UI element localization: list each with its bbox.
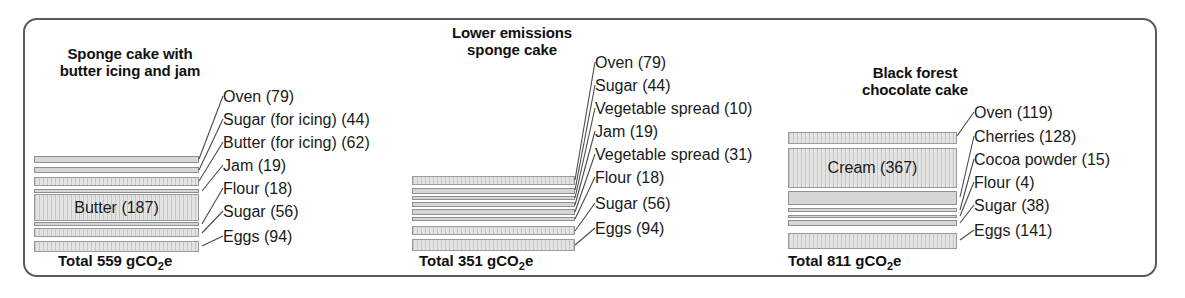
callout-oven: Oven (119) <box>974 105 1053 121</box>
panel-total: Total 351 gCO2e <box>419 252 533 272</box>
callout-eggs: Eggs (94) <box>223 229 292 245</box>
callout-jam: Jam (19) <box>223 158 286 174</box>
callout-flour: Flour (18) <box>223 181 292 197</box>
bar-segment-flour <box>788 215 957 218</box>
bar-segment-jam <box>412 202 575 207</box>
panel-lower-emissions-sponge-cake: Lower emissions sponge cake Oven (79) Su… <box>390 0 790 298</box>
callout-cocoa-powder: Cocoa powder (15) <box>974 152 1110 168</box>
callout-vegetable-spread-bottom: Vegetable spread (31) <box>595 147 752 163</box>
panel-total-suffix: e <box>164 252 172 269</box>
panel-sponge-cake-butter-icing-jam: Sponge cake with butter icing and jam Bu… <box>0 0 400 298</box>
callout-cherries: Cherries (128) <box>974 129 1076 145</box>
bar-segment-cherries <box>788 191 957 205</box>
callout-butter-for-icing: Butter (for icing) (62) <box>223 135 370 151</box>
panel-total-text: Total 351 gCO <box>419 252 519 269</box>
panel-total-suffix: e <box>893 252 901 269</box>
bar-segment-flour <box>34 222 199 226</box>
callout-flour: Flour (18) <box>595 170 664 186</box>
bar-inline-label-butter: Butter (187) <box>34 199 199 217</box>
cake-carbon-footprint-figure: Sponge cake with butter icing and jam Bu… <box>0 0 1185 298</box>
callout-eggs: Eggs (141) <box>974 223 1052 239</box>
bar-segment-vegetable-spread-top <box>412 196 575 200</box>
callout-vegetable-spread-top: Vegetable spread (10) <box>595 101 752 117</box>
panel-total-text: Total 811 gCO <box>788 252 887 269</box>
panel-total-suffix: e <box>525 252 533 269</box>
bar-segment-oven <box>788 132 957 144</box>
bar-segment-oven <box>34 156 199 163</box>
callout-oven: Oven (79) <box>595 55 666 71</box>
callout-flour: Flour (4) <box>974 175 1034 191</box>
bar-inline-label-cream: Cream (367) <box>788 159 957 177</box>
bar-segment-eggs <box>788 233 957 249</box>
panel-total: Total 559 gCO2e <box>58 252 172 272</box>
panel-black-forest-chocolate-cake: Black forest chocolate cake Cream (367) … <box>780 0 1185 298</box>
bar-segment-eggs <box>34 241 199 252</box>
bar-segment-flour <box>412 217 575 221</box>
bar-segment-oven <box>412 176 575 185</box>
bar-segment-jam <box>34 189 199 193</box>
bar-segment-eggs <box>412 239 575 251</box>
panel-title: Lower emissions sponge cake <box>412 24 612 58</box>
callout-sugar-bottom: Sugar (56) <box>595 196 671 212</box>
bar-segment-sugar-for-icing <box>34 167 199 173</box>
callout-sugar: Sugar (38) <box>974 198 1050 214</box>
callout-eggs: Eggs (94) <box>595 221 664 237</box>
panel-total: Total 811 gCO2e <box>788 252 901 272</box>
panel-title: Black forest chocolate cake <box>820 64 1010 98</box>
panel-total-text: Total 559 gCO <box>58 252 158 269</box>
bar-segment-sugar <box>34 228 199 237</box>
bar-segment-vegetable-spread-bottom <box>412 209 575 215</box>
callout-sugar-top: Sugar (44) <box>595 78 671 94</box>
bar-segment-sugar-bottom <box>412 226 575 235</box>
bar-segment-sugar <box>788 220 957 226</box>
bar-segment-cocoa-powder <box>788 208 957 212</box>
bar-segment-sugar-top <box>412 188 575 194</box>
callout-sugar: Sugar (56) <box>223 204 299 220</box>
callout-jam: Jam (19) <box>595 124 658 140</box>
callout-oven: Oven (79) <box>223 89 294 105</box>
panel-title: Sponge cake with butter icing and jam <box>34 45 226 79</box>
callout-sugar-for-icing: Sugar (for icing) (44) <box>223 112 370 128</box>
bar-segment-butter-for-icing <box>34 177 199 186</box>
